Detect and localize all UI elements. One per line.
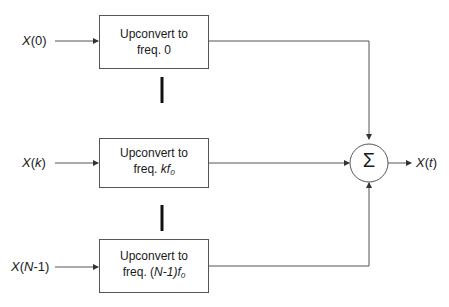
input-label-xk: X(k) bbox=[22, 155, 46, 170]
upconvert-block-k: Upconvert to freq. kf0 bbox=[99, 138, 209, 188]
summation-symbol: Σ bbox=[350, 149, 388, 172]
input-label-xn1: X(N-1) bbox=[11, 259, 49, 274]
upconvert-block-0: Upconvert to freq. 0 bbox=[99, 15, 209, 69]
output-label: X(t) bbox=[416, 155, 437, 170]
input-label-x0: X(0) bbox=[22, 33, 47, 48]
diagram-canvas: X(0) X(k) X(N-1) Upconvert to freq. 0 Up… bbox=[0, 0, 449, 307]
upconvert-block-n1: Upconvert to freq. (N-1)f0 bbox=[99, 239, 209, 293]
